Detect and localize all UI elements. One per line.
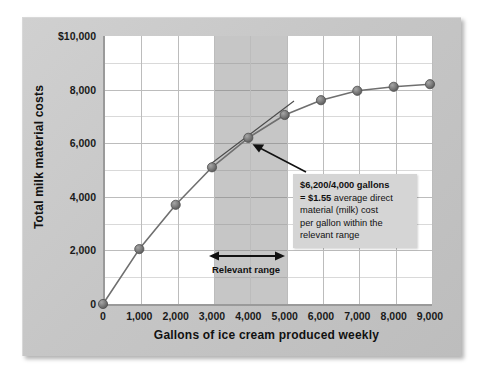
y-tick-8000: 8,000 — [70, 84, 96, 96]
gridline-v-5000 — [287, 36, 288, 304]
y-tick-4000: 4,000 — [70, 191, 96, 203]
x-axis-line — [103, 304, 432, 306]
gridline-v-1000 — [141, 36, 142, 304]
relevant-range-label: Relevant range — [212, 264, 280, 275]
y-tick-0: 0 — [90, 298, 96, 310]
x-tick-7000: 7,000 — [344, 310, 370, 322]
callout-rest-2: average direct — [331, 193, 393, 203]
y-tick-2000: 2,000 — [70, 244, 96, 256]
y-tick-6000: 6,000 — [70, 137, 96, 149]
callout-bold-2: = $1.55 — [300, 193, 331, 203]
gridline-v-8000 — [396, 36, 397, 304]
x-tick-4000: 4,000 — [235, 310, 261, 322]
x-tick-3000: 3,000 — [199, 310, 225, 322]
average-cost-callout: $6,200/4,000 gallons = $1.55 average dir… — [293, 174, 417, 248]
gridline-v-6000 — [323, 36, 324, 304]
x-tick-9000: 9,000 — [417, 310, 443, 322]
x-tick-1000: 1,000 — [126, 310, 152, 322]
callout-line-2: = $1.55 average direct — [300, 192, 410, 205]
gridline-v-2000 — [178, 36, 179, 304]
callout-line-1: $6,200/4,000 gallons — [300, 179, 410, 192]
x-tick-0: 0 — [100, 310, 106, 322]
callout-line-3: material (milk) cost — [300, 204, 410, 217]
x-axis-title: Gallons of ice cream produced weekly — [103, 328, 430, 342]
x-axis-tick-labels: 0 1,000 2,000 3,000 4,000 5,000 6,000 7,… — [103, 310, 430, 326]
chart-screenshot: $10,000 8,000 6,000 4,000 2,000 0 Total … — [0, 0, 480, 380]
x-tick-5000: 5,000 — [272, 310, 298, 322]
y-tick-10000: $10,000 — [58, 30, 96, 42]
gridline-v-9000 — [432, 36, 433, 304]
callout-line-5: relevant range — [300, 229, 410, 242]
callout-line-4: per gallon within the — [300, 217, 410, 230]
gridline-v-7000 — [359, 36, 360, 304]
x-tick-2000: 2,000 — [163, 310, 189, 322]
callout-bold-1: $6,200/4,000 gallons — [300, 180, 389, 190]
x-tick-8000: 8,000 — [381, 310, 407, 322]
x-tick-6000: 6,000 — [308, 310, 334, 322]
y-axis-title: Total milk material costs — [32, 57, 46, 257]
